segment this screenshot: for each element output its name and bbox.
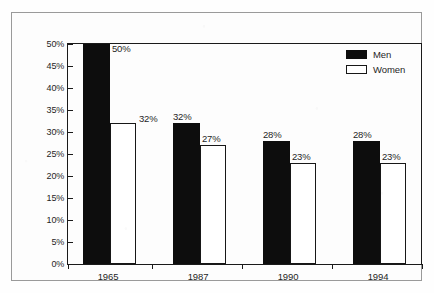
y-axis-tick-30: 30% (47, 127, 68, 137)
y-tick-mark (68, 132, 73, 133)
bar-value-men-1965: 50% (112, 43, 130, 54)
y-axis-label-30: 30% (47, 127, 68, 137)
y-axis-tick-50: 50% (47, 39, 68, 49)
legend-label-women: Women (373, 64, 405, 75)
y-tick-mark (68, 176, 73, 177)
x-axis-label-1990: 1990 (278, 271, 299, 282)
y-tick-mark (68, 66, 73, 67)
y-axis-tick-10: 10% (47, 215, 68, 225)
bar-women-1990[interactable] (290, 163, 316, 264)
bar-value-men-1994: 28% (353, 129, 371, 140)
legend-swatch-women-icon (346, 65, 367, 74)
bar-value-women-1990: 23% (292, 151, 310, 162)
y-axis-label-15: 15% (47, 193, 68, 203)
y-tick-mark (68, 198, 73, 199)
y-axis-label-40: 40% (47, 83, 68, 93)
x-tick-mark (332, 264, 333, 269)
bar-value-women-1994: 23% (382, 151, 400, 162)
x-axis-label-1987: 1987 (188, 271, 209, 282)
y-axis-tick-40: 40% (47, 83, 68, 93)
bar-men-1987[interactable] (173, 123, 200, 264)
x-axis-label-1965: 1965 (98, 271, 119, 282)
y-axis-label-10: 10% (47, 215, 68, 225)
bar-women-1994[interactable] (380, 163, 406, 264)
legend-item-women[interactable]: Women (346, 63, 405, 76)
y-axis-label-0: 0% (51, 259, 68, 269)
y-axis-tick-0: 0% (51, 259, 68, 269)
bar-group-1990: 28% 23% (263, 44, 332, 264)
y-axis-tick-35: 35% (47, 105, 68, 115)
bar-men-1994[interactable] (353, 141, 380, 264)
y-axis-tick-5: 5% (51, 237, 68, 247)
y-axis-label-35: 35% (47, 105, 68, 115)
legend-swatch-men-icon (346, 50, 367, 59)
chart-screenshot: 50% 45% 40% 35% 30% 25% (0, 0, 434, 293)
legend-item-men[interactable]: Men (346, 48, 405, 61)
y-axis-label-50: 50% (47, 39, 68, 49)
bar-men-1965[interactable] (83, 44, 110, 264)
y-axis-label-45: 45% (47, 61, 68, 71)
y-axis-tick-20: 20% (47, 171, 68, 181)
y-axis-label-20: 20% (47, 171, 68, 181)
legend-label-men: Men (373, 49, 391, 60)
bar-women-1987[interactable] (200, 145, 226, 264)
bar-group-1987: 32% 27% (173, 44, 242, 264)
y-tick-mark (68, 110, 73, 111)
bar-value-men-1987: 32% (173, 111, 191, 122)
bar-women-1965[interactable] (110, 123, 136, 264)
bar-value-men-1990: 28% (263, 129, 281, 140)
y-tick-mark (68, 242, 73, 243)
y-axis-tick-45: 45% (47, 61, 68, 71)
chart-legend: Men Women (346, 48, 405, 78)
chart-outer-frame: 50% 45% 40% 35% 30% 25% (11, 12, 422, 281)
x-axis-label-1994: 1994 (368, 271, 389, 282)
x-tick-mark (422, 264, 423, 269)
x-tick-mark (68, 264, 69, 269)
x-tick-mark (242, 264, 243, 269)
y-tick-mark (68, 154, 73, 155)
bar-value-women-1987: 27% (202, 133, 220, 144)
bar-value-women-1965: 32% (139, 113, 157, 124)
bar-group-1965: 50% 32% (83, 44, 152, 264)
y-tick-mark (68, 220, 73, 221)
y-tick-mark (68, 44, 73, 45)
y-axis-label-5: 5% (51, 237, 68, 247)
y-axis-label-25: 25% (47, 149, 68, 159)
y-tick-mark (68, 88, 73, 89)
y-axis-tick-15: 15% (47, 193, 68, 203)
bar-men-1990[interactable] (263, 141, 290, 264)
x-tick-mark (152, 264, 153, 269)
y-axis-tick-25: 25% (47, 149, 68, 159)
